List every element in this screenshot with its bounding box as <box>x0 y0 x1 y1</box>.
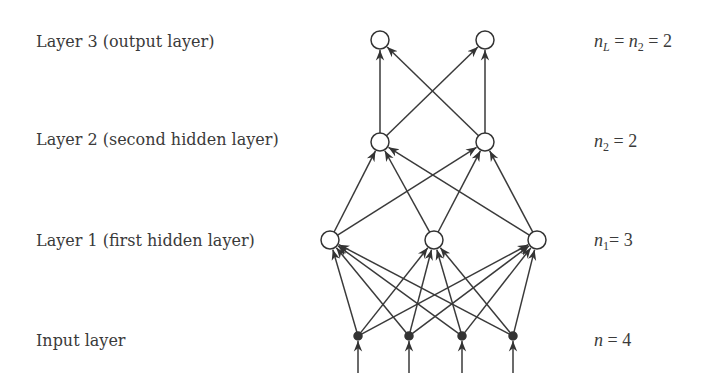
output-neuron <box>371 31 389 49</box>
connection-arrow <box>333 250 357 333</box>
connection-arrow <box>339 245 510 334</box>
hidden2-neuron <box>476 133 494 151</box>
input-neuron <box>509 332 517 340</box>
connection-arrow <box>362 245 529 334</box>
input-neuron <box>458 332 466 340</box>
connection-arrow <box>490 151 533 232</box>
hidden1-neuron <box>425 231 443 249</box>
input-neuron <box>405 332 413 340</box>
connection-arrow <box>338 246 459 334</box>
hidden2-neuron <box>371 133 389 151</box>
connection-arrow <box>514 250 535 332</box>
connection-arrow <box>388 147 529 235</box>
connection-arrow <box>385 151 430 232</box>
output-neuron <box>476 31 494 49</box>
input-neuron <box>354 332 362 340</box>
hidden1-neuron <box>321 231 339 249</box>
connection-arrow <box>334 151 375 232</box>
hidden1-neuron <box>528 231 546 249</box>
connections <box>333 47 535 373</box>
network-diagram <box>0 0 718 389</box>
